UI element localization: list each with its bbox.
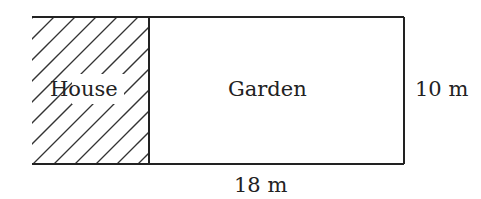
garden-label: Garden: [228, 79, 307, 100]
height-dimension-label: 10 m: [415, 79, 468, 100]
house-label: House: [50, 79, 118, 100]
width-dimension-label: 18 m: [234, 175, 287, 196]
